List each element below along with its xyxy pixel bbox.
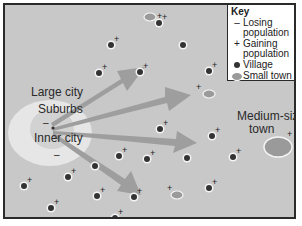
svg-text:+: + [287,129,292,139]
svg-text:+: + [27,175,32,185]
svg-text:+: + [212,177,217,187]
village: + [136,61,149,77]
village-dot-icon [234,62,240,68]
legend: Key – Losing population + Gaining popula… [227,5,294,81]
village: + [156,118,169,134]
legend-item-gaining: + Gaining population [231,39,294,59]
svg-text:+: + [150,148,155,158]
village: + [111,207,124,219]
legend-label: Losing population [243,18,294,38]
small-town: + [196,82,215,98]
svg-text:+: + [163,118,168,128]
svg-text:+: + [157,11,162,21]
village: + [115,145,128,161]
legend-title: Key [231,7,294,17]
svg-text:+: + [143,61,148,71]
svg-text:+: + [71,166,76,176]
suburbs-label: Suburbs [38,103,83,115]
svg-text:+: + [114,34,119,44]
svg-text:+: + [215,125,220,135]
diagram-frame: + + + + + + + + + + + + + + + + + + [3,3,296,219]
svg-text:–: – [43,117,49,128]
small-town: + [167,183,183,199]
legend-item-small-town: Small town [231,71,294,81]
village: + [205,177,218,193]
inner-city-label: Inner city [34,132,83,144]
village: + [47,197,60,213]
village: + [143,148,156,164]
svg-text:+: + [236,146,241,156]
svg-text:+: + [122,145,127,155]
svg-text:–: – [54,149,60,160]
village: + [93,185,106,201]
medium-town-label-line2: town [249,123,274,135]
svg-text:+: + [100,185,105,195]
svg-text:+: + [118,207,123,217]
legend-label: Small town [243,71,292,81]
svg-text:+: + [54,197,59,207]
legend-item-village: Village [231,60,294,70]
village: + [107,34,120,50]
village: + [64,166,77,182]
small-town-oval-icon [231,72,243,81]
village: + [205,60,218,76]
village [179,41,188,50]
large-city-label: Large city [31,86,83,98]
village: + [208,125,221,141]
village [91,162,100,171]
medium-town-label-line1: Medium-size [237,110,296,122]
legend-item-losing: – Losing population [231,18,294,38]
village: + [95,62,108,78]
svg-text:+: + [196,82,201,92]
village [183,154,192,163]
village: + [20,175,33,191]
svg-text:+: + [167,183,172,193]
legend-label: Village [243,60,273,70]
minus-icon: – [231,18,243,28]
village: + [229,146,242,162]
small-town: + [144,11,162,21]
svg-text:+: + [162,12,167,22]
svg-text:+: + [212,60,217,70]
svg-text:+: + [137,186,142,196]
plus-icon: + [231,39,243,49]
svg-text:+: + [102,62,107,72]
legend-label: Gaining population [243,39,294,59]
